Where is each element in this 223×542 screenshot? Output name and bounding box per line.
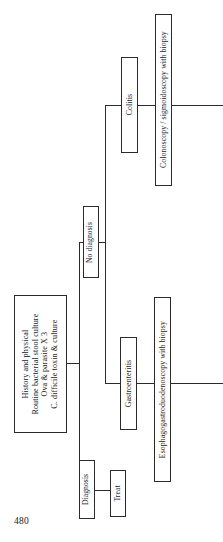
- workup-line-2: Routine bacterial stool culture: [31, 314, 41, 415]
- flowchart-canvas: History and physical Routine bacterial s…: [0, 0, 223, 542]
- node-no-diagnosis: No diagnosis: [83, 206, 99, 278]
- node-colonoscopy-label: Colonoscopy / sigmoidoscopy with biopsy: [159, 32, 168, 169]
- connector-trunk2-to-colitis: [105, 105, 122, 106]
- workup-line-1: History and physical: [21, 314, 31, 415]
- connector-secondary-trunk: [105, 105, 106, 384]
- node-gastroenteritis-label: Gastroenteritis: [124, 360, 133, 407]
- node-egd-label: Esophagogastroduodenoscopy with biopsy: [158, 321, 167, 458]
- workup-line-3: Ova & parasite X 3: [41, 314, 51, 415]
- connector-colitis-to-colonoscopy: [137, 105, 156, 106]
- connector-diagnosis-to-treat: [95, 490, 111, 491]
- node-diagnosis: Diagnosis: [79, 460, 95, 519]
- node-diagnosis-label: Diagnosis: [83, 474, 92, 505]
- node-colitis: Colitis: [121, 57, 138, 153]
- node-initial-workup-label: History and physical Routine bacterial s…: [21, 314, 59, 415]
- connector-trunk2-to-gastroenteritis: [105, 383, 121, 384]
- node-esophagogastroduodenoscopy: Esophagogastroduodenoscopy with biopsy: [154, 297, 171, 482]
- workup-line-4: C. difficile toxin & culture: [50, 314, 60, 415]
- connector-egd-outflow: [170, 383, 223, 384]
- node-colonoscopy-sigmoidoscopy: Colonoscopy / sigmoidoscopy with biopsy: [155, 14, 172, 186]
- node-treat: Treat: [110, 470, 126, 517]
- connector-primary-trunk: [79, 242, 80, 490]
- node-colitis-label: Colitis: [125, 94, 134, 116]
- node-initial-workup: History and physical Routine bacterial s…: [14, 295, 67, 433]
- node-gastroenteritis: Gastroenteritis: [120, 337, 137, 430]
- node-treat-label: Treat: [114, 485, 123, 501]
- connector-gastroenteritis-to-egd: [136, 383, 155, 384]
- page-number: 480: [14, 516, 29, 526]
- node-no-diagnosis-label: No diagnosis: [87, 221, 96, 262]
- connector-colonoscopy-outflow: [171, 105, 223, 106]
